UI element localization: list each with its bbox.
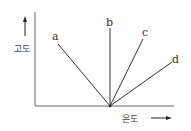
altitude-temperature-diagram: 고도 온도 a b c d [0, 0, 191, 131]
up-arrow-icon [23, 16, 27, 36]
origin-point [109, 105, 112, 108]
label-a: a [52, 30, 59, 43]
label-b: b [106, 16, 113, 29]
line-c [110, 39, 143, 106]
label-c: c [142, 26, 148, 39]
x-axis-label: 온도 [122, 114, 138, 124]
right-arrow-icon [151, 116, 172, 120]
y-axis-label: 고도 [14, 44, 30, 54]
label-d: d [172, 53, 179, 66]
line-a [58, 44, 110, 106]
line-d [110, 62, 172, 106]
